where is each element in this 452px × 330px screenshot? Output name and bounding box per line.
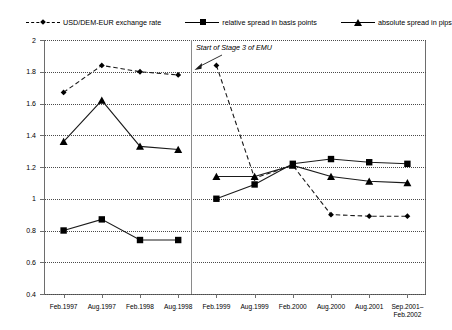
y-tick-mark	[40, 262, 45, 263]
y-tick-mark	[40, 72, 45, 73]
x-tick-mark	[331, 294, 332, 298]
y-gridline	[44, 72, 426, 73]
y-tick-label: 1	[14, 195, 36, 202]
legend-label-exchange-rate: USD/DEM-EUR exchange rate	[63, 18, 161, 27]
stage3-divider-line	[191, 40, 192, 294]
legend-item-relative-spread: relative spread in basis points	[185, 18, 317, 27]
y-tick-label: 0.8	[14, 227, 36, 234]
y-gridline	[44, 231, 426, 232]
y-tick-label: 1.2	[14, 164, 36, 171]
legend-swatch-solid-triangle	[341, 18, 375, 27]
legend-label-absolute-spread: absolute spread in pips	[378, 18, 452, 27]
y-tick-label: 1.4	[14, 132, 36, 139]
y-tick-mark	[40, 167, 45, 168]
x-tick-mark	[64, 294, 65, 298]
y-gridline	[44, 104, 426, 105]
x-tick-mark	[407, 294, 408, 298]
x-tick-mark	[140, 294, 141, 298]
x-tick-label: Sep.2001–Feb.2002	[375, 303, 439, 319]
y-tick-mark	[40, 104, 45, 105]
legend-label-relative-spread: relative spread in basis points	[222, 18, 317, 27]
y-tick-mark	[40, 40, 45, 41]
y-tick-label: 0.6	[14, 259, 36, 266]
x-tick-mark	[216, 294, 217, 298]
x-tick-mark	[178, 294, 179, 298]
y-tick-mark	[40, 294, 45, 295]
x-tick-mark	[102, 294, 103, 298]
legend-swatch-dashed-diamond	[26, 18, 60, 27]
chart-legend: USD/DEM-EUR exchange rate relative sprea…	[26, 15, 426, 29]
y-tick-mark	[40, 199, 45, 200]
y-gridline	[44, 135, 426, 136]
y-tick-label: 2	[14, 37, 36, 44]
y-gridline	[44, 40, 426, 41]
legend-item-exchange-rate: USD/DEM-EUR exchange rate	[26, 18, 161, 27]
y-tick-label: 0.4	[14, 291, 36, 298]
y-tick-label: 1.8	[14, 68, 36, 75]
y-gridline	[44, 167, 426, 168]
y-gridline	[44, 199, 426, 200]
legend-item-absolute-spread: absolute spread in pips	[341, 18, 452, 27]
legend-swatch-solid-square	[185, 18, 219, 27]
x-tick-mark	[293, 294, 294, 298]
annotation-stage3-label: Start of Stage 3 of EMU	[196, 43, 272, 52]
y-tick-label: 1.6	[14, 100, 36, 107]
x-tick-mark	[369, 294, 370, 298]
y-gridline	[44, 262, 426, 263]
y-tick-mark	[40, 135, 45, 136]
x-tick-mark	[255, 294, 256, 298]
y-tick-mark	[40, 231, 45, 232]
